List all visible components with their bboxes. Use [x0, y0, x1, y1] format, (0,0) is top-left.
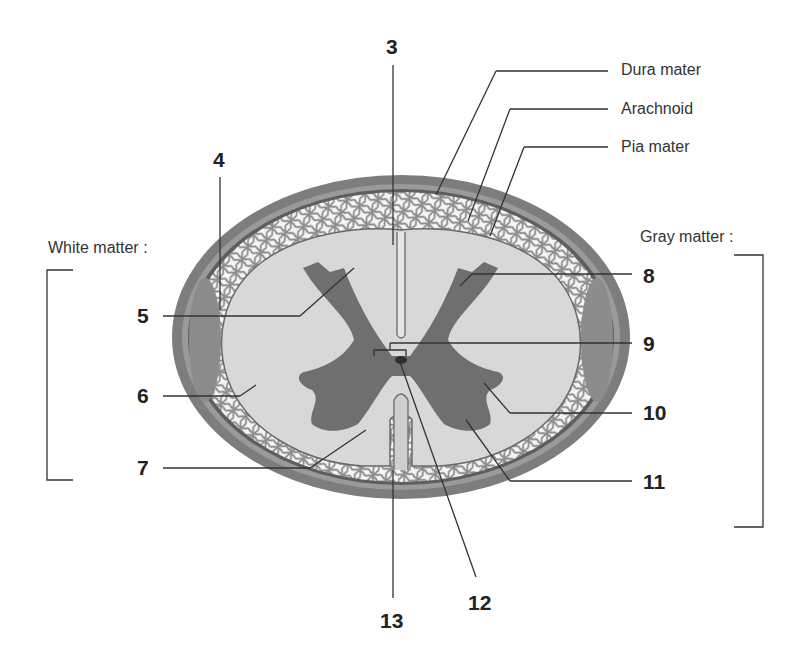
- central-canal: [395, 356, 407, 364]
- number-6: 6: [137, 385, 149, 406]
- number-13: 13: [380, 610, 403, 631]
- number-5: 5: [137, 305, 149, 326]
- posterior-median-sulcus: [397, 232, 405, 338]
- number-12: 12: [468, 592, 491, 613]
- number-11: 11: [643, 471, 665, 492]
- number-7: 7: [137, 457, 149, 478]
- anterior-median-fissure: [394, 394, 408, 470]
- label-dura-mater: Dura mater: [621, 62, 701, 78]
- label-white-matter: White matter :: [48, 240, 148, 256]
- label-pia-mater: Pia mater: [621, 139, 689, 155]
- number-4: 4: [213, 149, 225, 170]
- number-10: 10: [643, 402, 666, 423]
- number-8: 8: [643, 265, 655, 286]
- number-3: 3: [386, 36, 398, 57]
- number-9: 9: [643, 333, 655, 354]
- label-gray-matter: Gray matter :: [640, 229, 733, 245]
- label-arachnoid: Arachnoid: [621, 101, 693, 117]
